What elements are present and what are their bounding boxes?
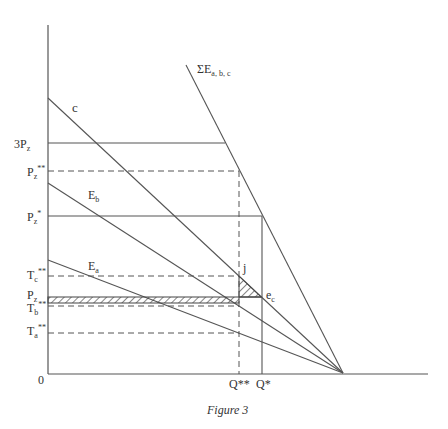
label-q-star: Q*	[256, 377, 271, 391]
label-ec: ec	[266, 288, 275, 304]
label-c: c	[72, 100, 78, 115]
figure-3-diagram: 3Pz Pz** Pz* Tc** Pz Tb** Ta** 0 Q** Q* …	[0, 0, 448, 429]
label-3pz: 3Pz	[14, 137, 31, 153]
label-pz-star: Pz*	[27, 209, 41, 226]
line-ea	[48, 260, 343, 373]
label-sum-e: ΣEa, b, c	[197, 62, 231, 78]
label-pz-star2: Pz**	[27, 164, 45, 181]
label-ta-star2: Ta**	[27, 323, 46, 340]
line-sum-e	[186, 65, 343, 373]
hatched-pz-band	[48, 297, 239, 303]
label-tc-star2: Tc**	[27, 267, 46, 284]
label-q-star2: Q**	[229, 377, 250, 391]
line-c	[48, 98, 343, 373]
hatched-triangle-j-ec	[239, 276, 261, 297]
label-eb: Eb	[88, 188, 99, 204]
label-ea: Ea	[88, 259, 99, 275]
origin-label: 0	[38, 373, 44, 387]
figure-caption: Figure 3	[206, 403, 248, 417]
line-eb	[48, 183, 343, 373]
label-j: j	[242, 261, 246, 275]
